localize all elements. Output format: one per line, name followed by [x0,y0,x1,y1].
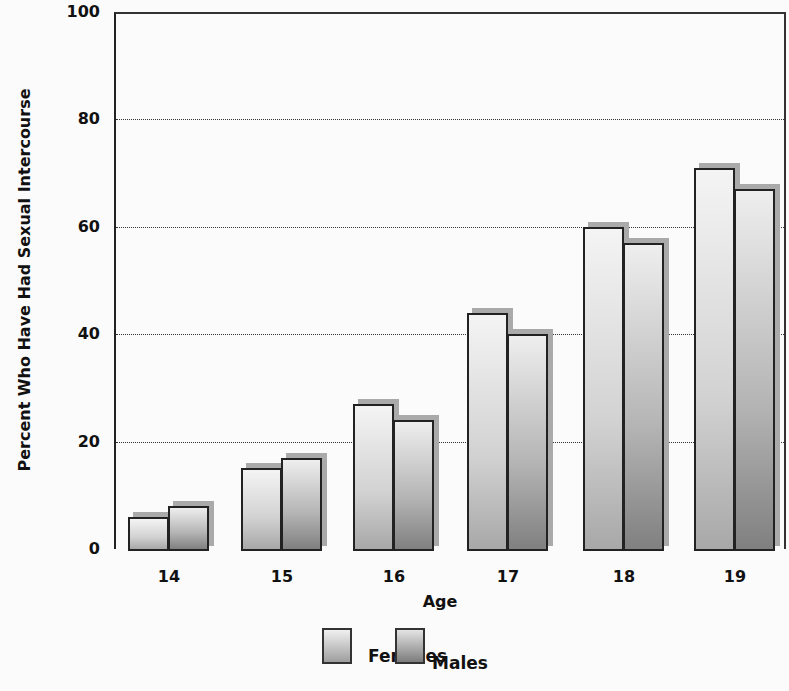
gridline-80 [116,119,786,120]
bar-males-16 [393,420,434,551]
bar-females-16 [353,404,394,551]
bar-males-14 [168,506,209,551]
bar-males-17 [507,334,548,551]
x-tick-17: 17 [478,567,538,586]
legend-label-males: Males [432,653,488,673]
legend-swatch-females [322,628,352,664]
gridline-20 [116,442,786,443]
legend-swatch-males [395,628,425,664]
x-tick-14: 14 [139,567,199,586]
bar-females-19 [694,168,735,551]
x-tick-16: 16 [364,567,424,586]
y-tick-80: 80 [40,111,100,127]
gridline-60 [116,227,786,228]
x-axis-label: Age [410,592,470,611]
bar-males-18 [623,243,664,551]
x-tick-19: 19 [705,567,765,586]
bar-females-17 [467,313,508,551]
x-tick-15: 15 [252,567,312,586]
y-tick-40: 40 [40,326,100,342]
bar-females-15 [241,468,282,551]
y-tick-0: 0 [40,541,100,557]
plot-frame [114,12,786,549]
y-axis-label: Percent Who Have Had Sexual Intercourse [15,88,34,471]
y-tick-20: 20 [40,434,100,450]
bar-males-15 [281,458,322,551]
bar-males-19 [734,189,775,551]
y-tick-100: 100 [40,4,100,20]
bar-females-18 [583,227,624,551]
y-tick-60: 60 [40,219,100,235]
gridline-40 [116,334,786,335]
x-tick-18: 18 [594,567,654,586]
bar-females-14 [128,517,169,551]
